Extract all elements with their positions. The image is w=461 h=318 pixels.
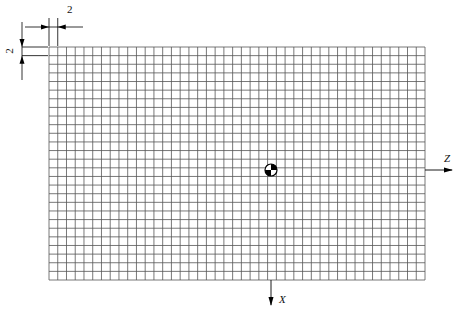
cell-height-label: 2: [3, 48, 15, 54]
grid-canvas: [0, 0, 461, 318]
cell-width-label: 2: [67, 3, 73, 15]
x-axis-label: X: [279, 293, 286, 305]
arrow-right-icon: [41, 25, 49, 30]
arrow-down-icon: [20, 39, 25, 47]
arrow-left-icon: [58, 25, 66, 30]
mesh-diagram: 2 2 Z X: [0, 0, 461, 318]
z-axis-arrow-icon: [444, 168, 453, 173]
x-axis-arrow-icon: [269, 297, 274, 306]
z-axis-label: Z: [444, 152, 450, 164]
arrow-up-icon: [20, 56, 25, 64]
